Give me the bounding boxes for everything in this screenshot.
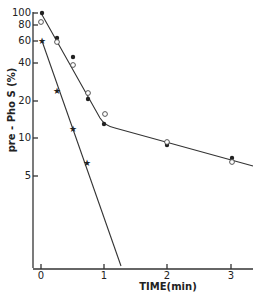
y-axis-title: pre - Pho S (%) [6,68,17,153]
y-tick-10: 10 [18,132,31,143]
data-point [86,91,91,96]
star-icon: ★ [53,86,61,96]
y-tick-100: 100 [12,7,31,18]
data-point [165,140,170,145]
data-point [86,97,90,101]
x-axis-title: TIME(min) [139,281,196,292]
data-point [102,122,106,126]
data-point [230,160,235,165]
x-tick-0: 0 [38,270,44,281]
data-point [71,55,75,59]
data-point [103,112,108,117]
star-icon: ★ [83,158,91,168]
star-icon: ★ [69,124,77,134]
x-tick-1: 1 [101,270,107,281]
y-tick-20: 20 [18,95,31,106]
series-open-circles [39,20,235,165]
series-filled-circles [40,11,234,160]
chart: 100 80 60 40 20 10 5 0 1 2 3 TIME(min) p… [0,0,262,293]
data-point [55,40,60,45]
data-point [40,11,44,15]
circles-fit-line [41,13,253,166]
data-point [71,63,76,68]
stars-fit-line [42,41,121,266]
x-tick-labels: 0 1 2 3 [38,270,234,281]
y-tick-5: 5 [25,170,31,181]
y-tick-40: 40 [18,57,31,68]
data-point [39,20,44,25]
x-ticks [41,264,231,269]
y-tick-80: 80 [18,19,31,30]
star-icon: ★ [38,36,46,46]
x-tick-2: 2 [164,270,170,281]
x-tick-3: 3 [228,270,234,281]
y-tick-60: 60 [18,35,31,46]
